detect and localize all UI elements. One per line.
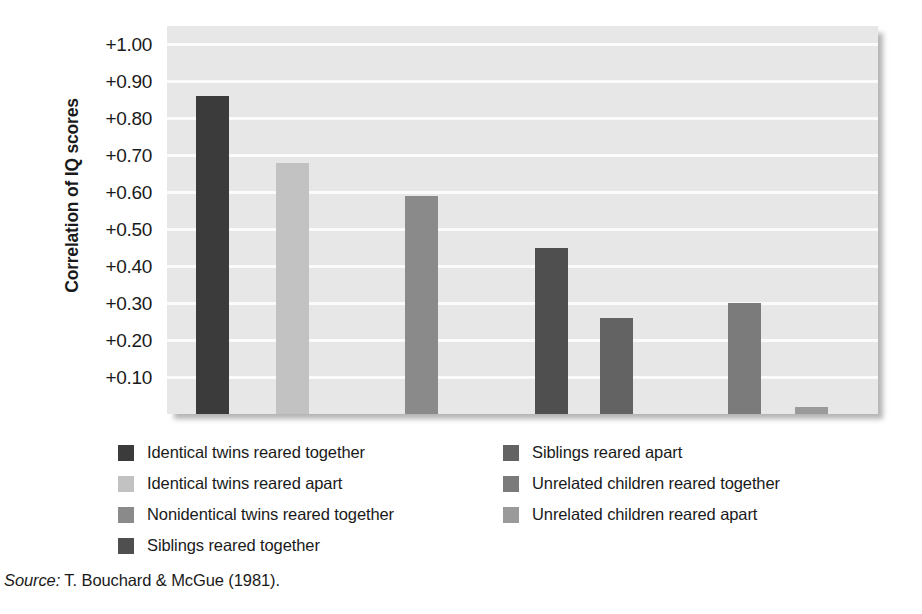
legend-column-right: Siblings reared apartUnrelated children … bbox=[503, 437, 780, 530]
iq-correlation-figure: Correlation of IQ scores +1.00+0.90+0.80… bbox=[0, 0, 922, 614]
bar bbox=[600, 318, 633, 414]
legend-swatch-icon bbox=[503, 476, 519, 492]
source-note: Source: T. Bouchard & McGue (1981). bbox=[4, 571, 280, 590]
y-axis-tick-label: +0.80 bbox=[105, 109, 152, 128]
legend-item-label: Unrelated children reared apart bbox=[532, 505, 757, 524]
bar bbox=[728, 303, 761, 414]
legend-swatch-icon bbox=[503, 445, 519, 461]
gridline bbox=[167, 228, 878, 231]
legend-item: Identical twins reared together bbox=[118, 437, 394, 468]
legend-item: Unrelated children reared together bbox=[503, 468, 780, 499]
legend-swatch-icon bbox=[503, 507, 519, 523]
y-axis-tick-label: +0.60 bbox=[105, 183, 152, 202]
source-citation: T. Bouchard & McGue (1981). bbox=[64, 571, 280, 589]
gridline bbox=[167, 80, 878, 83]
bar bbox=[405, 196, 438, 414]
bar bbox=[535, 248, 568, 414]
gridline bbox=[167, 43, 878, 46]
y-axis-tick-label: +0.40 bbox=[105, 257, 152, 276]
gridline bbox=[167, 154, 878, 157]
y-axis-tick-label: +1.00 bbox=[105, 35, 152, 54]
y-axis-tick-label: +0.70 bbox=[105, 146, 152, 165]
y-axis-tick-label: +0.20 bbox=[105, 331, 152, 350]
gridline bbox=[167, 376, 878, 379]
legend-item: Siblings reared together bbox=[118, 530, 394, 561]
legend-swatch-icon bbox=[118, 445, 134, 461]
source-label: Source: bbox=[4, 571, 60, 589]
legend-item-label: Siblings reared apart bbox=[532, 443, 682, 462]
legend-item: Unrelated children reared apart bbox=[503, 499, 780, 530]
legend-item-label: Siblings reared together bbox=[147, 536, 320, 555]
gridline bbox=[167, 302, 878, 305]
legend-item: Identical twins reared apart bbox=[118, 468, 394, 499]
legend-item: Siblings reared apart bbox=[503, 437, 780, 468]
legend-item-label: Unrelated children reared together bbox=[532, 474, 780, 493]
y-axis-tick-labels: +1.00+0.90+0.80+0.70+0.60+0.50+0.40+0.30… bbox=[88, 26, 160, 414]
y-axis-tick-label: +0.10 bbox=[105, 368, 152, 387]
legend-swatch-icon bbox=[118, 538, 134, 554]
legend: Identical twins reared togetherIdentical… bbox=[0, 437, 922, 567]
bar bbox=[795, 407, 828, 414]
legend-item-label: Nonidentical twins reared together bbox=[147, 505, 394, 524]
bar bbox=[196, 96, 229, 414]
gridline bbox=[167, 339, 878, 342]
legend-swatch-icon bbox=[118, 507, 134, 523]
gridline bbox=[167, 191, 878, 194]
y-axis-title: Correlation of IQ scores bbox=[62, 46, 83, 346]
y-axis-tick-label: +0.90 bbox=[105, 72, 152, 91]
legend-swatch-icon bbox=[118, 476, 134, 492]
y-axis-tick-label: +0.50 bbox=[105, 220, 152, 239]
bar bbox=[276, 163, 309, 414]
y-axis-tick-label: +0.30 bbox=[105, 294, 152, 313]
gridline bbox=[167, 117, 878, 120]
plot-area bbox=[167, 26, 878, 414]
legend-item: Nonidentical twins reared together bbox=[118, 499, 394, 530]
legend-column-left: Identical twins reared togetherIdentical… bbox=[118, 437, 394, 561]
legend-item-label: Identical twins reared together bbox=[147, 443, 365, 462]
gridline bbox=[167, 265, 878, 268]
legend-item-label: Identical twins reared apart bbox=[147, 474, 342, 493]
